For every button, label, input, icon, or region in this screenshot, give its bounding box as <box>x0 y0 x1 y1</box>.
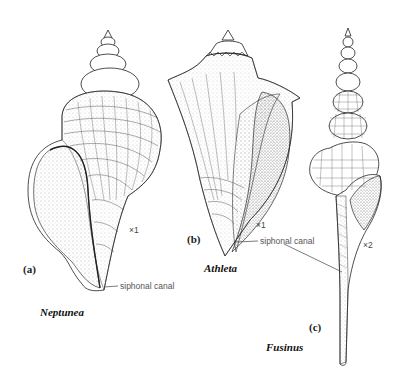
genus-label-athleta: Athleta <box>204 263 237 274</box>
leader-a-siphonal-canal <box>104 286 118 287</box>
scale-label-b: ×1 <box>256 221 266 230</box>
shell-drawings <box>0 0 406 388</box>
athleta-shell <box>168 30 300 256</box>
neptunea-shell <box>28 30 161 291</box>
scale-label-a: ×1 <box>129 226 139 235</box>
genus-label-neptunea: Neptunea <box>40 307 84 318</box>
genus-label-fusinus: Fusinus <box>266 342 303 353</box>
leader-c-siphonal-canal <box>284 244 342 272</box>
callout-siphonal-canal-a: siphonal canal <box>120 282 174 291</box>
fusinus-shell <box>310 28 382 365</box>
scale-label-c: ×2 <box>363 241 373 250</box>
panel-label-c: (c) <box>309 322 321 333</box>
panel-label-b: (b) <box>187 234 200 245</box>
shell-illustration-figure: (a) ×1 siphonal canal Neptunea (b) ×1 si… <box>0 0 406 388</box>
panel-label-a: (a) <box>23 264 36 275</box>
callout-siphonal-canal-b: siphonal canal <box>260 237 314 246</box>
